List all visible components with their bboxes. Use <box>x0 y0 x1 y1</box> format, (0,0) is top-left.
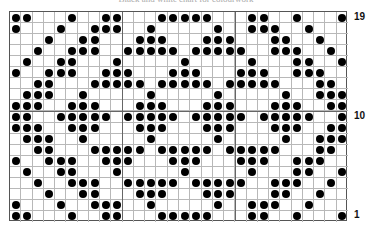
stitch-dot <box>192 113 200 121</box>
stitch-dot <box>293 47 301 55</box>
grid-cell <box>303 45 314 56</box>
grid-cell <box>10 145 21 156</box>
stitch-dot <box>147 47 155 55</box>
grid-cell <box>55 34 66 45</box>
grid-cell <box>269 67 280 78</box>
stitch-dot <box>260 201 268 209</box>
grid-cell <box>258 123 269 134</box>
grid-cell <box>235 167 246 178</box>
stitch-dot <box>102 146 110 154</box>
stitch-dot <box>12 113 20 121</box>
stitch-dot <box>12 14 20 22</box>
stitch-dot <box>57 69 65 77</box>
stitch-dot <box>181 58 189 66</box>
grid-cell <box>89 211 100 222</box>
stitch-dot <box>158 80 166 88</box>
grid-cell <box>303 178 314 189</box>
stitch-dot <box>136 113 144 121</box>
stitch-dot <box>192 146 200 154</box>
grid-cell <box>280 200 291 211</box>
grid-cell <box>314 56 325 67</box>
grid-cell <box>156 134 167 145</box>
stitch-dot <box>102 113 110 121</box>
stitch-dot <box>305 69 313 77</box>
grid-cell <box>10 89 21 100</box>
grid-cell <box>21 45 32 56</box>
grid-cell <box>156 89 167 100</box>
colourwork-grid <box>9 11 347 221</box>
grid-cell <box>292 89 303 100</box>
grid-cell <box>111 89 122 100</box>
grid-cell <box>190 89 201 100</box>
grid-cell <box>10 189 21 200</box>
grid-cell <box>224 211 235 222</box>
grid-cell <box>55 123 66 134</box>
stitch-dot <box>226 47 234 55</box>
stitch-dot <box>147 102 155 110</box>
grid-cell <box>224 134 235 145</box>
grid-cell <box>55 100 66 111</box>
grid-cell <box>292 134 303 145</box>
stitch-dot <box>316 69 324 77</box>
stitch-dot <box>68 69 76 77</box>
grid-cell <box>55 78 66 89</box>
grid-cell <box>33 56 44 67</box>
stitch-dot <box>327 102 335 110</box>
grid-cell <box>314 45 325 56</box>
grid-cell <box>258 45 269 56</box>
grid-cell <box>44 211 55 222</box>
grid-cell <box>213 145 224 156</box>
grid-cell <box>337 45 348 56</box>
grid-cell <box>202 89 213 100</box>
stitch-dot <box>113 80 121 88</box>
grid-cell <box>269 12 280 23</box>
stitch-dot <box>192 80 200 88</box>
stitch-dot <box>147 113 155 121</box>
grid-cell <box>280 167 291 178</box>
row-number-label: 19 <box>354 11 365 22</box>
grid-cell <box>314 111 325 122</box>
stitch-dot <box>23 14 31 22</box>
row-number-label: 10 <box>354 110 365 121</box>
grid-cell <box>44 111 55 122</box>
grid-cell <box>280 56 291 67</box>
stitch-dot <box>136 146 144 154</box>
grid-cell <box>21 178 32 189</box>
grid-cell <box>33 200 44 211</box>
grid-cell <box>44 178 55 189</box>
stitch-dot <box>248 58 256 66</box>
stitch-dot <box>147 36 155 44</box>
grid-cell <box>134 134 145 145</box>
grid-cell <box>145 156 156 167</box>
grid-cell <box>156 56 167 67</box>
stitch-dot <box>91 25 99 33</box>
stitch-dot <box>226 80 234 88</box>
grid-cell <box>213 56 224 67</box>
grid-cell <box>235 189 246 200</box>
grid-cell <box>337 67 348 78</box>
stitch-dot <box>248 69 256 77</box>
grid-cell <box>202 56 213 67</box>
stitch-dot <box>57 25 65 33</box>
stitch-dot <box>91 113 99 121</box>
grid-cell <box>258 34 269 45</box>
grid-cell <box>100 100 111 111</box>
grid-cell <box>247 34 258 45</box>
grid-cell <box>337 23 348 34</box>
grid-cell <box>55 134 66 145</box>
grid-cell <box>190 200 201 211</box>
grid-cell <box>314 200 325 211</box>
grid-cell <box>134 56 145 67</box>
stitch-dot <box>136 80 144 88</box>
stitch-dot <box>158 36 166 44</box>
grid-cell <box>100 34 111 45</box>
grid-cell <box>213 167 224 178</box>
grid-cell <box>156 23 167 34</box>
stitch-dot <box>158 102 166 110</box>
stitch-dot <box>282 91 290 99</box>
grid-cell <box>123 134 134 145</box>
grid-cell <box>66 23 77 34</box>
stitch-dot <box>91 47 99 55</box>
grid-cell <box>224 23 235 34</box>
stitch-dot <box>327 47 335 55</box>
